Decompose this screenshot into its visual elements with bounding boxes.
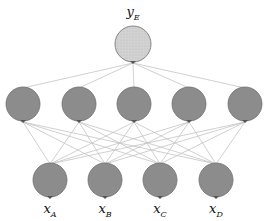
input-label-b: xB [98, 201, 111, 219]
arrow-tip-icon [131, 120, 137, 123]
edge [23, 63, 133, 88]
edge [133, 63, 134, 88]
edge [133, 63, 189, 88]
edge [189, 122, 216, 164]
hidden-node [172, 87, 206, 121]
edge [23, 122, 50, 164]
edge [216, 122, 245, 164]
arrow-tip-icon [102, 196, 108, 199]
edge [79, 63, 133, 88]
input-label-d: xD [209, 201, 223, 219]
output-node [115, 26, 151, 62]
network-diagram [0, 0, 266, 221]
output-label: yE [126, 4, 139, 22]
hidden-node [117, 87, 151, 121]
arrow-tip-icon [157, 196, 163, 199]
hidden-node [228, 87, 262, 121]
input-node [199, 163, 233, 197]
edge [23, 122, 216, 164]
hidden-node [62, 87, 96, 121]
input-node [143, 163, 177, 197]
input-label-c: xC [153, 201, 166, 219]
input-node [33, 163, 67, 197]
arrow-tip-icon [47, 196, 53, 199]
arrow-tip-icon [213, 196, 219, 199]
hidden-node [6, 87, 40, 121]
edge [133, 63, 245, 88]
input-label-a: xA [43, 201, 56, 219]
input-node [88, 163, 122, 197]
network-nodes [6, 26, 262, 199]
